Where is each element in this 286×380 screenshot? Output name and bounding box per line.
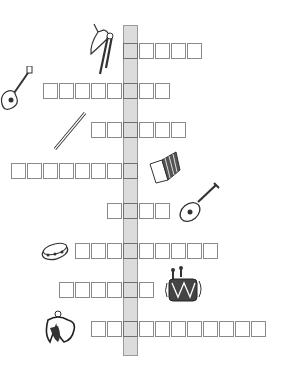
letter-cell[interactable] (91, 83, 106, 99)
letter-cell[interactable] (171, 43, 186, 59)
letter-cell[interactable] (251, 321, 266, 337)
letter-cell[interactable] (107, 282, 122, 298)
key-letter-cell[interactable] (123, 163, 138, 179)
letter-cell[interactable] (155, 43, 170, 59)
letter-cell[interactable] (107, 83, 122, 99)
letter-cell[interactable] (139, 282, 154, 298)
letter-cell[interactable] (139, 243, 154, 259)
bagpipes-icon (88, 22, 118, 77)
letter-cell[interactable] (155, 122, 170, 138)
letter-cell[interactable] (187, 43, 202, 59)
key-letter-cell[interactable] (123, 243, 138, 259)
letter-cell[interactable] (27, 163, 42, 179)
crossword-row-castanets (91, 321, 266, 337)
letter-cell[interactable] (219, 321, 234, 337)
letter-cell[interactable] (59, 83, 74, 99)
letter-cell[interactable] (91, 163, 106, 179)
letter-cell[interactable] (139, 203, 154, 219)
letter-cell[interactable] (43, 163, 58, 179)
letter-cell[interactable] (107, 243, 122, 259)
crossword-row-drum (59, 282, 154, 298)
crossword-row-bagpipes (123, 43, 202, 59)
key-letter-cell[interactable] (123, 83, 138, 99)
letter-cell[interactable] (171, 243, 186, 259)
tambourine-icon (40, 240, 70, 264)
letter-cell[interactable] (139, 43, 154, 59)
letter-cell[interactable] (75, 163, 90, 179)
letter-cell[interactable] (203, 321, 218, 337)
letter-cell[interactable] (11, 163, 26, 179)
crossword-row-accordion (11, 163, 138, 179)
crossword-row-mandolin (107, 203, 170, 219)
letter-cell[interactable] (75, 243, 90, 259)
letter-cell[interactable] (187, 321, 202, 337)
letter-cell[interactable] (107, 321, 122, 337)
crossword-row-flute (91, 122, 186, 138)
letter-cell[interactable] (107, 122, 122, 138)
letter-cell[interactable] (59, 163, 74, 179)
key-column (123, 25, 138, 356)
letter-cell[interactable] (91, 282, 106, 298)
letter-cell[interactable] (155, 83, 170, 99)
drum-icon (165, 265, 205, 305)
letter-cell[interactable] (75, 282, 90, 298)
castanets-icon (44, 310, 78, 346)
crossword-row-tambourine (75, 243, 218, 259)
letter-cell[interactable] (107, 163, 122, 179)
letter-cell[interactable] (155, 243, 170, 259)
letter-cell[interactable] (187, 243, 202, 259)
letter-cell[interactable] (91, 243, 106, 259)
letter-cell[interactable] (75, 83, 90, 99)
letter-cell[interactable] (155, 321, 170, 337)
guitar-icon (0, 66, 34, 112)
key-letter-cell[interactable] (123, 203, 138, 219)
key-letter-cell[interactable] (123, 122, 138, 138)
letter-cell[interactable] (203, 243, 218, 259)
letter-cell[interactable] (59, 282, 74, 298)
flute-icon (52, 110, 88, 152)
key-letter-cell[interactable] (123, 321, 138, 337)
letter-cell[interactable] (139, 122, 154, 138)
letter-cell[interactable] (43, 83, 58, 99)
mandolin-icon (178, 182, 220, 224)
letter-cell[interactable] (91, 321, 106, 337)
letter-cell[interactable] (171, 122, 186, 138)
letter-cell[interactable] (235, 321, 250, 337)
letter-cell[interactable] (171, 321, 186, 337)
crossword-row-guitar (43, 83, 170, 99)
letter-cell[interactable] (139, 83, 154, 99)
letter-cell[interactable] (107, 203, 122, 219)
letter-cell[interactable] (139, 321, 154, 337)
key-letter-cell[interactable] (123, 43, 138, 59)
accordion-icon (148, 150, 182, 184)
key-letter-cell[interactable] (123, 282, 138, 298)
letter-cell[interactable] (155, 203, 170, 219)
letter-cell[interactable] (91, 122, 106, 138)
